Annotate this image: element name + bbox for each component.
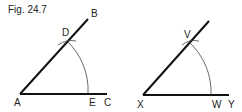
label-b: B: [91, 8, 98, 19]
figure-left: A B C D E: [14, 8, 111, 108]
label-e: E: [89, 97, 96, 108]
ray-xv: [143, 21, 209, 95]
label-v: V: [184, 29, 191, 40]
ray-ab: [20, 19, 88, 94]
angle-copy-diagram: Fig. 24.7 A B C D E X Y V W: [0, 0, 242, 112]
label-d: D: [62, 27, 69, 38]
figure-right: X Y V W: [137, 21, 235, 110]
label-c: C: [104, 97, 111, 108]
label-y: Y: [228, 99, 235, 110]
figure-caption: Fig. 24.7: [8, 4, 47, 15]
arc-vw: [189, 42, 211, 95]
label-w: W: [212, 99, 222, 110]
diagram-canvas: Fig. 24.7 A B C D E X Y V W: [0, 0, 242, 112]
arc-de: [67, 41, 88, 94]
label-x: X: [137, 99, 144, 110]
label-a: A: [14, 97, 21, 108]
